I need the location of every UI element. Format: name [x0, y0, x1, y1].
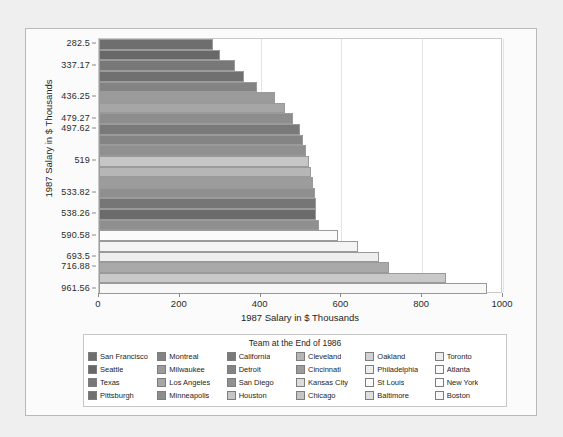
bar[interactable] [99, 113, 293, 124]
legend-swatch [296, 365, 305, 374]
x-axis-tick-labels: 02004006008001000 [98, 293, 502, 311]
y-axis-tick-mark [92, 234, 96, 235]
legend-item[interactable]: Boston [435, 389, 502, 402]
legend-swatch [88, 352, 97, 361]
bar[interactable] [99, 167, 311, 178]
legend-item[interactable]: Seattle [88, 363, 155, 376]
bar-row[interactable] [99, 50, 501, 61]
legend-label: Detroit [239, 365, 261, 374]
legend-item[interactable]: Atlanta [435, 363, 502, 376]
bar[interactable] [99, 230, 338, 241]
bar[interactable] [99, 135, 303, 146]
bar[interactable] [99, 220, 319, 231]
legend-item[interactable]: New York [435, 376, 502, 389]
legend-item[interactable]: Baltimore [365, 389, 432, 402]
bar[interactable] [99, 177, 313, 188]
bar[interactable] [99, 209, 316, 220]
bar[interactable] [99, 262, 389, 273]
bar-row[interactable] [99, 124, 501, 135]
legend-item[interactable]: Los Angeles [157, 376, 224, 389]
bar-row[interactable] [99, 241, 501, 252]
bar-row[interactable] [99, 188, 501, 199]
legend-swatch [365, 352, 374, 361]
bar[interactable] [99, 60, 235, 71]
bar[interactable] [99, 145, 306, 156]
legend-item[interactable]: Houston [227, 389, 294, 402]
legend-item[interactable]: Pittsburgh [88, 389, 155, 402]
bar-row[interactable] [99, 82, 501, 93]
x-axis-tick-label: 600 [332, 298, 348, 309]
legend-item[interactable]: Cincinnati [296, 363, 363, 376]
bar-row[interactable] [99, 156, 501, 167]
bar-row[interactable] [99, 230, 501, 241]
legend-item[interactable]: Chicago [296, 389, 363, 402]
bar-row[interactable] [99, 60, 501, 71]
legend-item[interactable]: Milwaukee [157, 363, 224, 376]
bar[interactable] [99, 71, 244, 82]
legend-label: Texas [100, 378, 120, 387]
bar-row[interactable] [99, 145, 501, 156]
legend-label: Philadelphia [377, 365, 418, 374]
y-axis-tick-mark [92, 64, 96, 65]
bar-row[interactable] [99, 135, 501, 146]
bar[interactable] [99, 124, 300, 135]
legend-swatch [365, 391, 374, 400]
legend-label: Houston [239, 391, 267, 400]
legend-item[interactable]: California [227, 350, 294, 363]
legend-swatch [435, 378, 444, 387]
legend-swatch [435, 352, 444, 361]
legend-item[interactable]: Philadelphia [365, 363, 432, 376]
bar-row[interactable] [99, 198, 501, 209]
legend-item[interactable]: San Diego [227, 376, 294, 389]
bar-row[interactable] [99, 252, 501, 263]
legend-item[interactable]: San Francisco [88, 350, 155, 363]
legend-item[interactable]: Texas [88, 376, 155, 389]
legend-label: Los Angeles [169, 378, 210, 387]
bar-row[interactable] [99, 103, 501, 114]
legend-item[interactable]: Detroit [227, 363, 294, 376]
y-axis-tick-label: 337.17 [61, 60, 90, 70]
bar-row[interactable] [99, 167, 501, 178]
x-axis-tick-label: 1000 [491, 298, 512, 309]
x-axis-tick-mark [260, 293, 261, 297]
legend-swatch [365, 378, 374, 387]
bar[interactable] [99, 273, 446, 284]
y-axis-tick-mark [92, 128, 96, 129]
legend-swatch [227, 391, 236, 400]
bar-row[interactable] [99, 209, 501, 220]
bar-row[interactable] [99, 273, 501, 284]
legend-swatch [157, 378, 166, 387]
bar[interactable] [99, 156, 309, 167]
x-axis-tick-label: 0 [95, 298, 100, 309]
legend-item[interactable]: Cleveland [296, 350, 363, 363]
bar-row[interactable] [99, 177, 501, 188]
y-axis-tick-label: 693.5 [66, 251, 90, 261]
legend-item[interactable]: Kansas City [296, 376, 363, 389]
legend-item[interactable]: St Louis [365, 376, 432, 389]
legend-item[interactable]: Minneapolis [157, 389, 224, 402]
legend-item[interactable]: Toronto [435, 350, 502, 363]
bar[interactable] [99, 92, 275, 103]
bar[interactable] [99, 50, 220, 61]
legend-label: Oakland [377, 352, 405, 361]
y-axis-tick-mark [92, 117, 96, 118]
legend-item[interactable]: Oakland [365, 350, 432, 363]
bar-row[interactable] [99, 113, 501, 124]
y-axis-tick-label: 479.27 [61, 113, 90, 123]
bar[interactable] [99, 188, 315, 199]
bar[interactable] [99, 252, 379, 263]
bar-row[interactable] [99, 39, 501, 50]
bar-row[interactable] [99, 262, 501, 273]
bar-row[interactable] [99, 71, 501, 82]
bar[interactable] [99, 198, 316, 209]
bar-row[interactable] [99, 220, 501, 231]
legend-swatch [88, 365, 97, 374]
y-axis-tick-mark [92, 96, 96, 97]
bar-row[interactable] [99, 92, 501, 103]
legend-item[interactable]: Montreal [157, 350, 224, 363]
bar[interactable] [99, 103, 285, 114]
legend-label: Milwaukee [169, 365, 204, 374]
bar[interactable] [99, 241, 358, 252]
bar[interactable] [99, 39, 213, 50]
bar[interactable] [99, 82, 257, 93]
